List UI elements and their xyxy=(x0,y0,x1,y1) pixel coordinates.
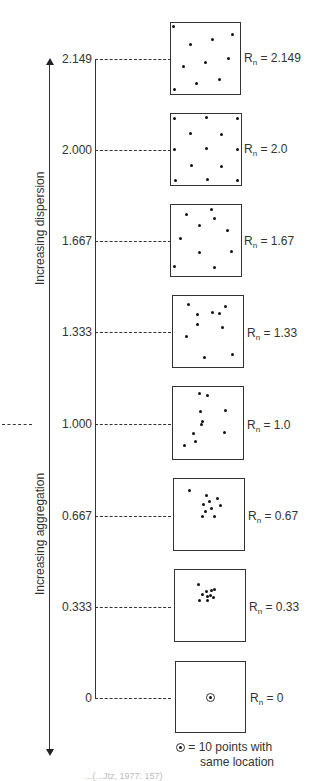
tick-connector xyxy=(95,516,171,517)
tick-connector xyxy=(95,332,171,333)
point xyxy=(196,313,199,316)
circled-dot-icon xyxy=(206,693,215,702)
tick-label-0667: 0.667 xyxy=(32,509,92,523)
point xyxy=(201,593,204,596)
point xyxy=(185,335,188,338)
point xyxy=(206,599,209,602)
point xyxy=(188,489,191,492)
point xyxy=(199,410,202,413)
point xyxy=(202,503,205,506)
tick-connector xyxy=(95,424,171,425)
point xyxy=(231,353,234,356)
point xyxy=(206,394,209,397)
arrow-down-icon xyxy=(46,749,54,756)
tick-label-0333: 0.333 xyxy=(32,600,92,614)
point xyxy=(195,82,198,85)
point xyxy=(211,38,214,41)
tick-connector xyxy=(95,607,171,608)
scale-axis-line xyxy=(95,59,96,699)
point xyxy=(205,116,208,119)
pattern-panel-2149 xyxy=(170,22,241,95)
point xyxy=(216,497,219,500)
point xyxy=(198,392,201,395)
point xyxy=(213,217,216,220)
point xyxy=(198,251,201,254)
rn-label-0333: Rn = 0.33 xyxy=(249,600,299,619)
point xyxy=(173,265,176,268)
point xyxy=(205,147,208,150)
point xyxy=(173,88,176,91)
pattern-panel-0 xyxy=(175,661,246,733)
tick-label-1667: 1.667 xyxy=(32,234,92,248)
point xyxy=(198,599,201,602)
point xyxy=(223,431,226,434)
figure-caption: ...(...Jtz, 1977: 157) xyxy=(85,771,163,781)
point xyxy=(210,208,213,211)
point xyxy=(205,590,208,593)
point xyxy=(190,164,193,167)
point xyxy=(219,504,222,507)
pattern-panel-0667 xyxy=(173,478,245,551)
point xyxy=(185,213,188,216)
pattern-panel-2000 xyxy=(170,113,242,186)
tick-connector xyxy=(95,59,171,60)
tick-label-2000: 2.000 xyxy=(32,143,92,157)
point xyxy=(220,133,223,136)
point xyxy=(173,148,176,151)
point xyxy=(179,237,182,240)
legend: = 10 points with same location xyxy=(176,740,274,770)
rn-label-1667: Rn = 1.67 xyxy=(244,234,294,253)
point xyxy=(221,326,224,329)
point xyxy=(182,65,185,68)
point xyxy=(230,250,233,253)
point xyxy=(211,311,214,314)
rn-label-0: Rn = 0 xyxy=(250,691,283,710)
pattern-panel-1333 xyxy=(172,295,244,368)
point xyxy=(212,596,215,599)
point xyxy=(224,409,227,412)
point xyxy=(218,312,221,315)
point xyxy=(174,179,177,182)
point xyxy=(227,57,230,60)
rn-label-1000: Rn = 1.0 xyxy=(247,418,290,437)
point xyxy=(196,323,199,326)
increasing-dispersion-label: Increasing dispersion xyxy=(33,172,47,285)
point xyxy=(226,229,229,232)
point xyxy=(236,117,239,120)
tick-connector xyxy=(95,241,171,242)
point xyxy=(173,117,176,120)
point xyxy=(203,356,206,359)
point xyxy=(172,25,175,28)
point xyxy=(224,305,227,308)
legend-line-1: = 10 points with xyxy=(176,740,274,755)
point xyxy=(200,423,203,426)
point xyxy=(189,43,192,46)
point xyxy=(187,303,190,306)
point xyxy=(213,588,216,591)
point xyxy=(204,510,207,513)
point xyxy=(210,507,213,510)
tick-label-0: 0 xyxy=(32,691,92,705)
point xyxy=(231,33,234,36)
rn-label-2149: Rn = 2.149 xyxy=(244,51,301,70)
point xyxy=(208,500,211,503)
rn-label-1333: Rn = 1.33 xyxy=(247,326,297,345)
point xyxy=(183,444,186,447)
random-threshold-dash-left xyxy=(2,424,32,425)
tick-label-1000: 1.000 xyxy=(32,417,92,431)
point xyxy=(213,266,216,269)
point xyxy=(189,132,192,135)
point xyxy=(201,515,204,518)
point xyxy=(198,224,201,227)
point xyxy=(205,494,208,497)
direction-arrow-line xyxy=(49,64,50,750)
point xyxy=(206,178,209,181)
pattern-panel-0333 xyxy=(174,569,246,642)
point xyxy=(236,148,239,151)
tick-label-1333: 1.333 xyxy=(32,325,92,339)
tick-label-2149: 2.149 xyxy=(32,52,92,66)
increasing-aggregation-label: Increasing aggregation xyxy=(33,473,47,595)
point xyxy=(218,78,221,81)
point xyxy=(192,432,195,435)
point xyxy=(236,179,239,182)
